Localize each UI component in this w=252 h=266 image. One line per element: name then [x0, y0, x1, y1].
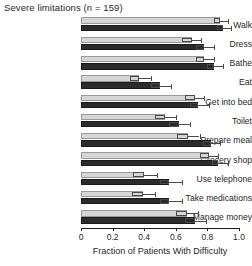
x-tick-label: 0 [79, 232, 84, 242]
bar-light [81, 56, 204, 62]
error-box [151, 83, 160, 88]
error-box [200, 153, 209, 158]
error-box [130, 76, 139, 81]
x-tick-label: 1.0 [233, 232, 245, 242]
error-whisker [195, 221, 206, 222]
bar-dark [81, 121, 179, 127]
error-whisker [204, 59, 213, 60]
error-whisker [209, 156, 218, 157]
error-cap [182, 199, 183, 204]
x-axis-label: Fraction of Patients With Difficulty [81, 246, 239, 256]
error-cap [220, 141, 221, 146]
error-box [169, 122, 178, 127]
x-tick-mark [144, 228, 145, 231]
error-cap [176, 115, 177, 120]
error-cap [231, 26, 232, 31]
error-box [196, 45, 204, 50]
error-cap [190, 122, 191, 127]
bar-light [81, 152, 209, 158]
error-whisker [195, 98, 204, 99]
error-box [196, 57, 204, 62]
x-tick-label: 0.4 [138, 232, 150, 242]
bar-light [81, 37, 192, 43]
error-cap [214, 45, 215, 50]
bar-light [81, 114, 165, 120]
bar-dark [81, 82, 160, 88]
error-cap [228, 19, 229, 24]
error-cap [157, 173, 158, 178]
bar-light [81, 133, 188, 139]
error-whisker [165, 117, 176, 118]
category-label: Use telephone [174, 174, 252, 184]
error-whisker [223, 28, 231, 29]
error-cap [151, 76, 152, 81]
error-whisker [160, 86, 171, 87]
x-tick-label: 0.6 [170, 232, 182, 242]
bar-light [81, 17, 220, 23]
error-box [185, 218, 194, 223]
error-cap [182, 180, 183, 185]
error-whisker [143, 194, 156, 195]
error-whisker [211, 143, 220, 144]
bar-dark [81, 140, 211, 146]
bar-dark [81, 25, 223, 31]
error-cap [214, 57, 215, 62]
bar-dark [81, 44, 204, 50]
x-tick-mark [239, 228, 240, 231]
error-whisker [214, 66, 223, 67]
bar-dark [81, 198, 169, 204]
error-whisker [204, 47, 213, 48]
bar-light [81, 210, 187, 216]
error-cap [209, 103, 210, 108]
chart-figure: Severe limitations (n = 159) 00.20.40.60… [0, 0, 252, 266]
error-whisker [144, 175, 157, 176]
error-whisker [169, 201, 182, 202]
error-whisker [220, 21, 228, 22]
x-tick-mark [207, 228, 208, 231]
x-tick-label: 0.2 [107, 232, 119, 242]
error-cap [218, 154, 219, 159]
error-box [182, 38, 191, 43]
bar-dark [81, 102, 198, 108]
error-cap [206, 219, 207, 224]
bar-light [81, 95, 195, 101]
error-box [203, 141, 211, 146]
error-whisker [188, 136, 199, 137]
error-box [160, 180, 169, 185]
bar-dark [81, 179, 169, 185]
error-whisker [139, 78, 150, 79]
error-box [177, 134, 188, 139]
category-label: Take medications [174, 193, 252, 203]
bar-dark [81, 217, 195, 223]
error-box [160, 199, 169, 204]
category-label: Eat [174, 77, 252, 87]
error-cap [200, 134, 201, 139]
error-box [190, 103, 198, 108]
x-tick-mark [81, 228, 82, 231]
error-box [176, 211, 187, 216]
error-whisker [198, 105, 209, 106]
error-cap [155, 192, 156, 197]
x-tick-label: 0.8 [201, 232, 213, 242]
bar-dark [81, 63, 214, 69]
error-whisker [192, 40, 201, 41]
x-tick-mark [113, 228, 114, 231]
error-cap [201, 38, 202, 43]
error-cap [223, 64, 224, 69]
error-box [185, 95, 194, 100]
error-box [132, 192, 143, 197]
error-whisker [218, 163, 227, 164]
error-box [133, 172, 144, 177]
error-cap [204, 96, 205, 101]
x-axis-line [81, 228, 239, 229]
error-cap [228, 161, 229, 166]
error-cap [171, 84, 172, 89]
error-whisker [179, 124, 190, 125]
error-box [155, 115, 164, 120]
x-tick-mark [176, 228, 177, 231]
chart-title: Severe limitations (n = 159) [4, 2, 123, 13]
error-cap [198, 211, 199, 216]
error-whisker [187, 213, 198, 214]
bar-dark [81, 160, 218, 166]
error-whisker [169, 182, 182, 183]
